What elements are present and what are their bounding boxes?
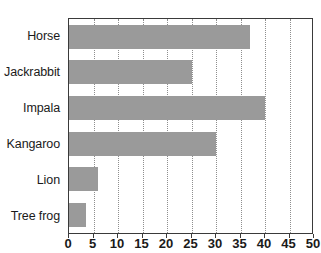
x-tick-label-0: 0 [64, 237, 71, 250]
x-tick-label-5: 5 [89, 237, 96, 250]
y-tick-label-lion: Lion [37, 174, 64, 187]
x-tick-label-40: 40 [257, 237, 271, 250]
x-axis-label-group: 05101520253035404550 [0, 237, 321, 253]
bar-horse [69, 25, 250, 49]
y-axis-label-group: Horse Jackrabbit Impala Kangaroo Lion Tr… [0, 18, 64, 234]
bar-impala [69, 96, 265, 120]
bar-row [69, 132, 312, 156]
x-tick-label-20: 20 [159, 237, 173, 250]
x-tick-label-15: 15 [134, 237, 148, 250]
bar-row [69, 96, 312, 120]
bar-row [69, 25, 312, 49]
y-tick-label-tree-frog: Tree frog [11, 210, 64, 223]
y-tick-label-jackrabbit: Jackrabbit [4, 66, 64, 79]
bar-tree-frog [69, 203, 86, 227]
bar-row [69, 203, 312, 227]
bar-jackrabbit [69, 60, 192, 84]
y-tick-label-kangaroo: Kangaroo [7, 138, 64, 151]
x-tick-label-30: 30 [208, 237, 222, 250]
y-tick-label-impala: Impala [23, 102, 64, 115]
bar-row [69, 60, 312, 84]
x-tick-label-10: 10 [110, 237, 124, 250]
plot-area [68, 18, 313, 234]
x-tick-label-45: 45 [281, 237, 295, 250]
x-tick-label-25: 25 [183, 237, 197, 250]
bar-lion [69, 167, 98, 191]
bar-kangaroo [69, 132, 216, 156]
x-tick-label-50: 50 [306, 237, 320, 250]
bar-row [69, 167, 312, 191]
y-tick-label-horse: Horse [27, 30, 64, 43]
x-tick-label-35: 35 [232, 237, 246, 250]
bar-chart: Horse Jackrabbit Impala Kangaroo Lion Tr… [0, 0, 321, 253]
bar-group [69, 19, 312, 233]
